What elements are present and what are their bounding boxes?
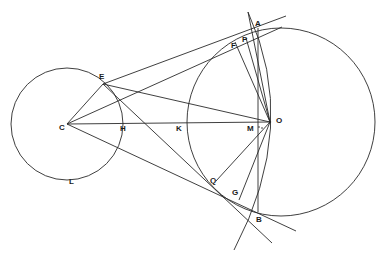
radius-OF	[235, 42, 270, 122]
radius-OQ	[216, 122, 270, 181]
label-H: H	[120, 125, 126, 133]
label-O: O	[276, 117, 282, 125]
radius-OG	[239, 122, 270, 200]
label-E: E	[99, 73, 104, 81]
line-E-lower	[103, 84, 272, 243]
line-EO	[103, 84, 270, 122]
label-Q: Q	[210, 177, 216, 185]
label-G: G	[232, 189, 238, 197]
line-CE	[67, 84, 103, 124]
label-C: C	[59, 124, 65, 132]
tick-dot	[261, 127, 263, 129]
label-B: B	[256, 216, 262, 224]
label-K: K	[176, 125, 182, 133]
label-F: F	[231, 42, 236, 50]
point-O-dot	[269, 121, 271, 123]
label-L: L	[69, 178, 74, 186]
label-P: P	[242, 36, 247, 44]
line-CO	[67, 122, 270, 124]
tick-dot	[258, 126, 260, 128]
label-A: A	[255, 20, 261, 28]
geometry-diagram: A P F E C H K M O L Q G B	[0, 0, 383, 260]
label-M: M	[247, 125, 254, 133]
line-A-O	[248, 12, 270, 122]
diagram-lines	[0, 0, 383, 260]
